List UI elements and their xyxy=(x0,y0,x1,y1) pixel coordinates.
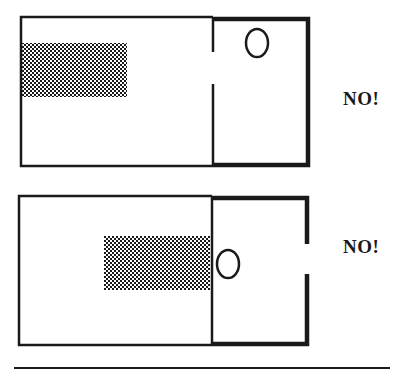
thick-wall-lower xyxy=(212,274,307,344)
no-label-top: NO! xyxy=(343,88,379,110)
panel-bottom xyxy=(19,196,307,345)
thick-wall-upper xyxy=(212,198,307,244)
no-label-bottom: NO! xyxy=(343,236,379,258)
diagram-canvas xyxy=(0,0,409,376)
circle-object xyxy=(246,29,268,57)
circle-object xyxy=(217,250,239,278)
panel-top xyxy=(21,17,308,166)
stippled-region xyxy=(104,236,210,290)
thick-wall xyxy=(213,19,308,165)
stippled-region xyxy=(21,43,127,97)
